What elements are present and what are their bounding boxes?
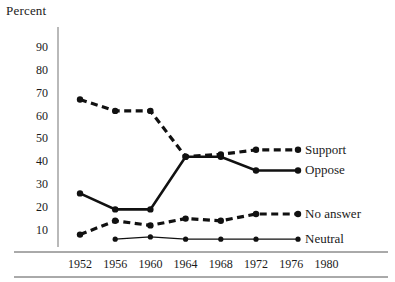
data-point <box>295 167 301 173</box>
y-tick-50: 50 <box>14 132 48 144</box>
series-label-oppose: Oppose <box>305 163 345 176</box>
data-point <box>253 237 258 242</box>
data-point <box>77 190 83 196</box>
y-tick-60: 60 <box>14 110 48 122</box>
series-neutral <box>113 234 301 242</box>
y-tick-30: 30 <box>14 178 48 190</box>
data-point <box>77 231 83 237</box>
data-point <box>218 237 223 242</box>
y-tick-10: 10 <box>14 224 48 236</box>
data-point <box>295 147 301 153</box>
data-point <box>253 211 259 217</box>
data-point <box>147 222 153 228</box>
data-point <box>218 218 224 224</box>
y-tick-90: 90 <box>14 41 48 53</box>
series-support <box>77 96 301 160</box>
data-point <box>295 237 300 242</box>
data-point <box>148 234 153 239</box>
data-point <box>218 154 224 160</box>
data-point <box>253 147 259 153</box>
data-point <box>182 215 188 221</box>
chart-container: Percent 908070605040302010 1952195619601… <box>0 0 395 282</box>
y-tick-80: 80 <box>14 64 48 76</box>
y-tick-20: 20 <box>14 201 48 213</box>
data-point <box>253 167 259 173</box>
data-point <box>182 154 188 160</box>
series-label-neutral: Neutral <box>305 232 344 245</box>
series-label-support: Support <box>305 143 346 156</box>
series-no-answer <box>77 211 301 238</box>
data-point <box>113 237 118 242</box>
data-point <box>147 108 153 114</box>
series-label-no-answer: No answer <box>305 207 361 220</box>
data-point <box>295 211 301 217</box>
series-layer <box>77 96 301 241</box>
data-point <box>183 237 188 242</box>
data-point <box>112 218 118 224</box>
data-point <box>112 206 118 212</box>
data-point <box>112 108 118 114</box>
series-oppose <box>77 154 301 213</box>
data-point <box>77 96 83 102</box>
data-point <box>147 206 153 212</box>
y-tick-40: 40 <box>14 155 48 167</box>
y-tick-70: 70 <box>14 87 48 99</box>
x-tick-1980: 1980 <box>304 258 348 270</box>
